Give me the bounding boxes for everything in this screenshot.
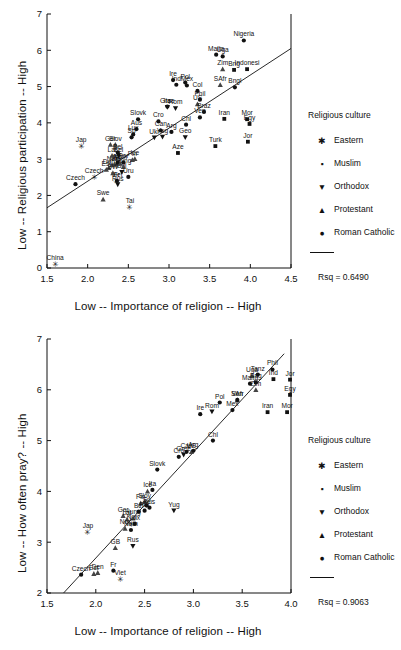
circle-marker [248,382,252,386]
data-point-label: Tai [126,197,135,204]
triangle-up-marker [253,387,258,392]
data-point[interactable]: Ven [194,107,206,119]
series-orthodox: RusRomYugGree [127,402,219,549]
data-point-label: Rus [127,536,139,543]
circle-marker [115,179,119,183]
triangle-up-marker [113,545,118,550]
triangle-down-marker [171,509,176,514]
data-point-label: Ita [149,480,157,487]
triangle-down-marker [152,136,157,141]
data-point-label: Uga [217,46,229,54]
data-point[interactable]: ✳Jap [83,522,94,537]
triangle-up-marker [95,570,100,575]
data-point[interactable]: Aze [172,143,184,155]
legend-fit-line-swatch [310,577,334,578]
x-tick-label: 3.5 [203,273,216,284]
chart-panel-religious-participation: 012345671.52.02.53.03.54.04.5✳China✳Jap✳… [0,0,401,325]
x-tick-label: 2.0 [81,273,94,284]
data-point-label: Swe [97,189,110,196]
data-point[interactable]: Jor [243,132,253,144]
data-point[interactable]: Chl [181,115,191,127]
data-point[interactable]: ✳Jap [76,136,87,151]
circle-marker [79,573,83,577]
x-tick-label: 3.0 [187,598,200,609]
y-tick-label: 3 [37,154,42,165]
data-point[interactable]: Turk [209,136,223,148]
data-point[interactable]: Ire [196,404,204,416]
data-point[interactable]: Zim [217,59,228,71]
data-point[interactable]: ✳Tai [126,197,135,212]
data-point-label: Yug [168,501,180,509]
data-point[interactable]: Czech [72,565,91,577]
circle-marker [230,408,234,412]
data-point[interactable]: Mor [281,402,293,414]
circle-marker [147,506,151,510]
data-point[interactable]: Egy [244,114,256,126]
data-point[interactable]: Zim [250,380,261,392]
data-point[interactable]: Chl [208,431,218,443]
data-point[interactable]: Iran [219,109,231,121]
data-point-label: Aus [144,498,156,505]
triangle-up-marker: ▲ [316,205,328,215]
square-marker [245,67,249,71]
data-point[interactable]: Rus [127,536,139,549]
triangle-up-marker [101,197,106,202]
data-point[interactable]: Slovk [149,460,166,472]
data-point[interactable]: Jor [285,370,295,382]
data-point-label: GB [111,538,121,545]
data-point[interactable]: Geo [179,127,192,140]
data-point-label: Fr [114,171,121,178]
data-point[interactable]: SAfr [214,75,228,87]
circle-marker [177,455,181,459]
data-point[interactable]: Rom [205,402,219,415]
data-point-label: Turk [209,136,223,143]
circle-marker [73,182,77,186]
data-point-label: Iran [219,109,231,116]
y-tick-label: 2 [37,190,42,201]
square-marker [232,68,236,72]
data-point-label: Chl [181,115,191,122]
data-point[interactable]: ✳China [47,254,65,269]
data-point[interactable]: Egy [284,385,296,397]
legend-label-roman-catholic: Roman Catholic [334,552,394,562]
square-marker [288,378,292,382]
data-point[interactable]: Cro [173,447,184,459]
data-point[interactable]: Mex [226,400,239,412]
triangle-down-marker [130,544,135,549]
data-point[interactable]: Uga [217,46,229,58]
triangle-down-marker [209,409,214,414]
data-point[interactable]: ✳Czech [85,167,104,182]
triangle-down-marker [160,135,165,140]
star-marker: ✳ [117,575,124,584]
circle-marker [242,38,246,42]
y-tick-label: 4 [37,486,42,497]
data-point[interactable]: GB [111,538,121,550]
data-point[interactable]: Swe [97,189,110,201]
data-point-label: Cro [173,447,184,454]
star-marker: ✳ [84,528,91,537]
triangle-up-marker [218,82,223,87]
circle-marker [137,510,141,514]
legend-label-muslim: Muslim [334,158,361,168]
data-point[interactable]: Bng [228,60,240,72]
x-tick-label: 3.0 [162,273,175,284]
data-point[interactable]: Iran [262,402,274,414]
data-point[interactable]: Uru [123,167,134,179]
star-marker: ✳ [52,260,59,269]
data-point[interactable]: ✳Viet [115,569,126,584]
circle-marker [111,569,115,573]
data-point[interactable]: Yug [168,501,180,514]
circle-marker [185,83,189,87]
rsq-label-top: Rsq = 0.6490 [318,272,369,282]
data-point[interactable]: Nigeria [233,30,254,42]
data-point[interactable]: Ita [164,97,172,109]
circle-marker [155,467,159,471]
data-point-label: Rom [205,402,219,409]
circle-marker: ● [316,553,328,563]
data-point[interactable]: Ita [149,480,157,492]
data-point[interactable]: Aus [144,498,156,510]
square-marker [248,122,252,126]
data-point[interactable]: Lux [128,124,139,136]
data-point-label: Tanz [251,365,265,372]
data-point-label: Egy [284,385,296,393]
